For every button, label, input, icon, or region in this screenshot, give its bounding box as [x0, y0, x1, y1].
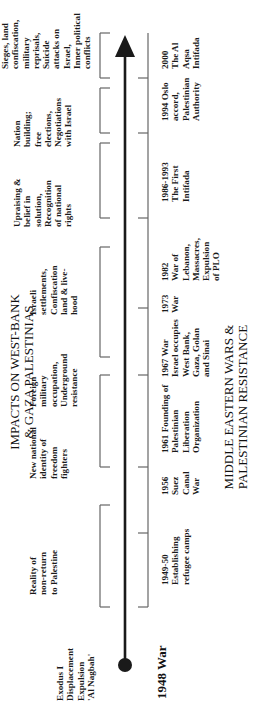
impact-label: Reality ofnon-returnto Palestine — [28, 550, 59, 595]
event-label: 1967 WarIsrael occupiesWest Bank,Gaza, G… — [160, 319, 211, 377]
event-label-line: 1994 Oslo — [160, 78, 170, 121]
event-label-line: 1982 — [160, 238, 170, 281]
impact-label: Upraising &belief insolution,Recognition… — [12, 178, 74, 227]
event-label-line: Canal — [181, 472, 191, 496]
impact-label-line: military — [21, 13, 31, 69]
event-label-line: The First — [170, 162, 180, 202]
impact-label-line: belief in — [22, 178, 32, 227]
impact-label-line: Sieges, land — [0, 13, 10, 69]
event-label-line: and Sinai — [201, 319, 211, 377]
event-label-line: 1956 — [160, 472, 170, 496]
event-label-line: War — [191, 472, 201, 496]
event-label-line: War — [170, 295, 180, 313]
impact-label-line: hood — [69, 265, 79, 315]
impact-label-line: Underground — [59, 354, 69, 407]
event-label-line: Lebanon, — [181, 238, 191, 281]
event-label-line: Aqsa — [181, 37, 191, 69]
impact-label: Sieges, landconfiscation,militaryreprisa… — [0, 13, 93, 69]
event-label-line: Massacres, — [191, 238, 201, 281]
start-event-label: 1948 War — [155, 645, 169, 699]
impact-label-line: resistance — [69, 354, 79, 407]
event-label-line: Intifada — [191, 37, 201, 69]
impact-label-line: Inner political — [72, 13, 82, 69]
impact-label: Foreignmilitaryoccupation,Undergroundres… — [28, 354, 79, 407]
impact-label-line: building; — [22, 98, 32, 147]
event-label: 1949-50Establishingrefugee camps — [160, 529, 191, 585]
timeline-start-dot — [118, 658, 132, 672]
impact-label-line: occupation, — [49, 354, 59, 407]
impact-label: New nationalidentity offreedomfighters — [28, 427, 69, 479]
event-label: 1956SuezCanalWar — [160, 472, 201, 496]
impact-label-line: Israel, — [62, 13, 72, 69]
impact-label-line: reprisals, — [31, 13, 41, 69]
wars-caption-line: PALESTINIAN RESISTANCE — [236, 322, 250, 492]
start-impact-line: Exodus I — [55, 648, 65, 701]
start-impact-label: Exodus IDisplacementExpulsion'Al Nagbah' — [55, 648, 96, 701]
impact-label-line: conflicts — [82, 13, 92, 69]
impact-label-line: Suicide — [41, 13, 51, 69]
impact-label-line: elections, — [43, 98, 53, 147]
impact-label-line: attacks on — [51, 13, 61, 69]
event-label-line: War of — [170, 238, 180, 281]
impact-label-line: fighters — [59, 427, 69, 479]
event-label: 1982War ofLebanon,Massacres,Expulsionof … — [160, 238, 222, 281]
event-label-line: Liberation — [181, 385, 191, 453]
impact-label-line: military — [38, 354, 48, 407]
impact-label-line: confiscation, — [10, 13, 20, 69]
impact-label-line: identity of — [38, 427, 48, 479]
impact-label-line: solution, — [33, 178, 43, 227]
event-label-line: of PLO — [211, 238, 221, 281]
impact-label-line: rights — [63, 178, 73, 227]
event-label-line: Gaza, Golan — [191, 319, 201, 377]
impact-label-line: Foreign — [28, 354, 38, 407]
impact-label-line: Upraising & — [12, 178, 22, 227]
start-impact-line: Displacement — [65, 648, 75, 701]
event-label-line: West Bank, — [181, 319, 191, 377]
event-label-line: Establishing — [170, 529, 180, 585]
impact-label: Israelisettlements,Confiscationland & li… — [28, 265, 79, 315]
event-label-line: 1949-50 — [160, 529, 170, 585]
impact-label-line: Israeli — [28, 265, 38, 315]
event-label-line: Expulsion — [201, 238, 211, 281]
wars-caption: MIDDLE EASTERN WARS & PALESTINIAN RESIST… — [222, 322, 250, 492]
impact-label-line: New national — [28, 427, 38, 479]
event-label: 1986-1993The FirstIntifada — [160, 162, 191, 202]
event-label-line: refugee camps — [181, 529, 191, 585]
start-impact-line: Expulsion — [76, 648, 86, 701]
impact-label-line: of national — [53, 178, 63, 227]
event-label-line: Palestinian — [181, 78, 191, 121]
event-label-line: Suez — [170, 472, 180, 496]
start-impact-line: 'Al Nagbah' — [86, 648, 96, 701]
event-label-line: Palestinian — [170, 385, 180, 453]
event-label: 1973War — [160, 295, 181, 313]
impact-label-line: free — [33, 98, 43, 147]
impact-label-line: freedom — [49, 427, 59, 479]
impact-label-line: settlements, — [38, 265, 48, 315]
timeline-diagram: IMPACTS ON WEST-BANK & GAZA PALESTINIAS … — [0, 0, 256, 707]
impact-label-line: Recognition — [43, 178, 53, 227]
impact-label-line: to Palestine — [49, 550, 59, 595]
event-label-line: Authority — [191, 78, 201, 121]
impact-brackets — [138, 33, 148, 607]
impacts-caption-line: IMPACTS ON WEST-BANK — [8, 292, 22, 452]
impact-label: Nationbuilding;freeelections,Negotiation… — [12, 98, 74, 147]
event-label-line: 1961 Founding of — [160, 385, 170, 453]
wars-caption-line: MIDDLE EASTERN WARS & — [222, 322, 236, 492]
event-label-line: The Al — [170, 37, 180, 69]
impact-label-line: with Israel — [63, 98, 73, 147]
impact-label-line: Reality of — [28, 550, 38, 595]
impact-label-line: Nation — [12, 98, 22, 147]
event-label-line: 1967 War — [160, 319, 170, 377]
event-label-line: 2000 — [160, 37, 170, 69]
event-label-line: Intifada — [181, 162, 191, 202]
event-label-line: accord, — [170, 78, 180, 121]
event-label-line: 1986-1993 — [160, 162, 170, 202]
event-label: 1994 Osloaccord,PalestinianAuthority — [160, 78, 201, 121]
impact-label-line: land & live- — [59, 265, 69, 315]
event-label: 2000The AlAqsaIntifada — [160, 37, 201, 69]
timeline-arrowhead — [115, 35, 135, 57]
impact-label-line: Confiscation — [49, 265, 59, 315]
event-brackets — [100, 33, 110, 607]
event-label-line: Organization — [191, 385, 201, 453]
impact-label-line: non-return — [38, 550, 48, 595]
